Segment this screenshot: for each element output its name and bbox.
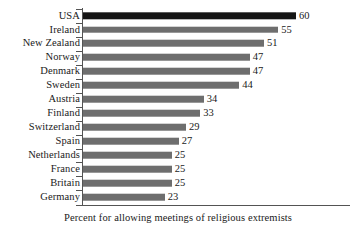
bar-chart: USA60Ireland55New Zealand51Norway47Denma… (0, 0, 356, 235)
bar-row: France25 (0, 162, 356, 175)
category-label: Ireland (50, 24, 80, 35)
category-label: Sweden (46, 80, 80, 91)
bar-row: Sweden44 (0, 79, 356, 92)
category-label: France (51, 164, 80, 175)
bar (83, 166, 172, 173)
bar-value-label: 29 (186, 122, 200, 133)
plot-area: USA60Ireland55New Zealand51Norway47Denma… (0, 0, 356, 206)
bar-row: Austria34 (0, 93, 356, 106)
axis-end-tick (76, 205, 83, 206)
category-label: Denmark (40, 66, 80, 77)
category-label: USA (59, 10, 80, 21)
bar-row: Denmark47 (0, 65, 356, 78)
bar-row: Germany23 (0, 190, 356, 203)
bar-value-label: 34 (204, 94, 218, 105)
bar (83, 194, 165, 201)
bar-value-label: 25 (172, 164, 186, 175)
bar-value-label: 60 (296, 10, 310, 21)
bar (83, 110, 200, 117)
category-label: Netherlands (28, 150, 80, 161)
bar-row: Netherlands25 (0, 149, 356, 162)
bar-value-label: 44 (239, 80, 253, 91)
y-axis-line (82, 8, 83, 206)
category-label: Switzerland (29, 122, 80, 133)
bar (83, 138, 179, 145)
category-label: Norway (46, 52, 80, 63)
bar (83, 152, 172, 159)
bar-value-label: 47 (250, 52, 264, 63)
bar (83, 180, 172, 187)
category-label: Britain (50, 178, 80, 189)
category-label: Austria (48, 94, 80, 105)
category-label: Spain (56, 136, 80, 147)
bar-value-label: 23 (165, 192, 179, 203)
bar-value-label: 55 (278, 24, 292, 35)
bar-row: Ireland55 (0, 23, 356, 36)
bar-row: New Zealand51 (0, 37, 356, 50)
category-label: Germany (40, 192, 80, 203)
bar (83, 54, 250, 61)
bar-row: Switzerland29 (0, 121, 356, 134)
category-label: Finland (47, 108, 80, 119)
bar (83, 40, 264, 47)
bar-row: Finland33 (0, 107, 356, 120)
bar-value-label: 47 (250, 66, 264, 77)
bar-row: USA60 (0, 9, 356, 22)
bar-value-label: 25 (172, 150, 186, 161)
bar (83, 82, 239, 89)
bar-highlighted (83, 12, 296, 19)
category-label: New Zealand (23, 38, 80, 49)
chart-caption: Percent for allowing meetings of religio… (0, 212, 356, 223)
bar-row: Spain27 (0, 135, 356, 148)
bar (83, 96, 204, 103)
bar (83, 124, 186, 131)
bar-value-label: 27 (179, 136, 193, 147)
bar-row: Britain25 (0, 176, 356, 189)
x-axis-line (82, 205, 350, 206)
bar-value-label: 25 (172, 178, 186, 189)
bar-row: Norway47 (0, 51, 356, 64)
bar-value-label: 33 (200, 108, 214, 119)
bar-value-label: 51 (264, 38, 278, 49)
bar (83, 26, 278, 33)
bar (83, 68, 250, 75)
